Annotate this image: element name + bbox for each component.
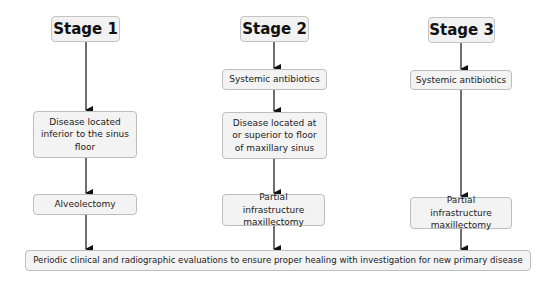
stage-2-disease-location-box: Disease located at or superior to floor …: [222, 112, 327, 159]
stage-3-antibiotics-box: Systemic antibiotics: [410, 70, 512, 90]
stage-2-antibiotics-box: Systemic antibiotics: [222, 69, 327, 90]
final-evaluation-box: Periodic clinical and radiographic evalu…: [25, 250, 531, 271]
stage-1-alveolectomy-box: Alveolectomy: [33, 194, 137, 215]
stage-2-header: Stage 2: [240, 16, 309, 42]
stage-3-header: Stage 3: [428, 17, 495, 43]
stage-1-header: Stage 1: [51, 16, 120, 42]
stage-3-maxillectomy-box: Partial infrastructure maxillectomy: [410, 197, 512, 229]
stage-2-maxillectomy-box: Partial infrastructure maxillectomy: [222, 194, 325, 226]
stage-1-disease-location-box: Disease located inferior to the sinus fl…: [33, 111, 137, 158]
